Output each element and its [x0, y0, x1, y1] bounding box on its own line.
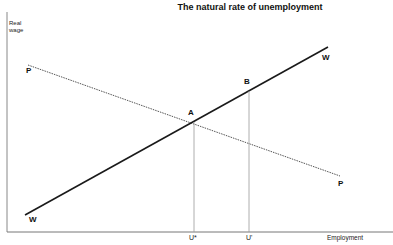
wage-curve-label-start: W — [29, 215, 37, 224]
point-b-label: B — [244, 77, 250, 86]
point-a-label: A — [188, 108, 194, 117]
wage-setting-curve — [25, 47, 328, 215]
u-star-tick-label: U* — [189, 234, 197, 241]
x-axis-label: Employment — [327, 234, 363, 241]
y-axis-label-line1: Real — [9, 20, 23, 27]
price-curve-label-end: P — [338, 179, 343, 188]
price-curve-label-start: P — [26, 66, 31, 75]
y-axis-label-line2: wage — [9, 27, 23, 34]
diagram-canvas — [0, 0, 393, 245]
u-prime-tick-label: U' — [246, 234, 252, 241]
wage-curve-label-end: W — [322, 53, 330, 62]
price-setting-curve — [28, 65, 340, 176]
y-axis-label: Real wage — [9, 20, 23, 34]
chart-title: The natural rate of unemployment — [150, 2, 350, 12]
